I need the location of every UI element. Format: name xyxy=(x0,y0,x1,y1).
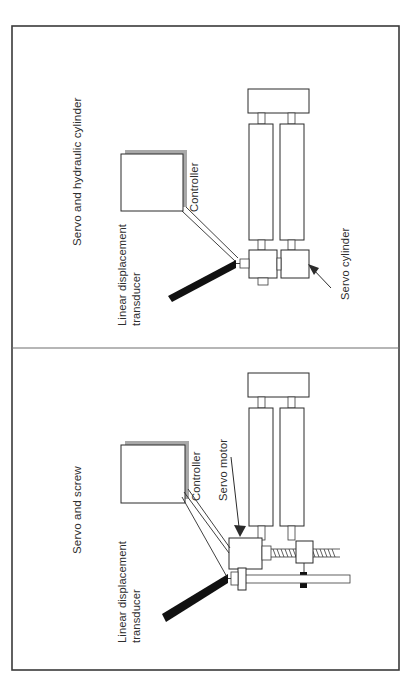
controller-box xyxy=(121,154,183,211)
column-neck-right xyxy=(288,526,295,540)
panel-title-screw: Servo and screw xyxy=(70,466,83,554)
cap-neck-right-screw xyxy=(288,397,295,408)
technical-diagram: Servo and hydraulic cylinder xyxy=(0,0,411,696)
transducer-label-line2: transducer xyxy=(130,272,142,326)
controller-box-screw xyxy=(121,445,185,503)
transducer-flange xyxy=(238,568,246,590)
cap-neck-left-screw xyxy=(258,397,265,408)
servo-cylinder-block xyxy=(281,250,309,278)
servo-motor-label: Servo motor xyxy=(217,439,229,501)
valve-port-stub xyxy=(258,278,268,285)
transducer-label-screw-line2: transducer xyxy=(130,589,142,643)
cap-neck-left xyxy=(258,113,265,124)
screw-nut-block xyxy=(296,541,313,563)
end-cap-block xyxy=(248,89,309,113)
end-cap-block-screw xyxy=(248,373,309,397)
transducer-housing xyxy=(231,572,238,585)
block-bridge xyxy=(277,258,281,270)
guide-rod xyxy=(245,575,350,583)
column-right xyxy=(280,408,304,526)
controller-label: Controller xyxy=(188,162,200,212)
cap-neck-right xyxy=(288,113,295,124)
transducer-mount xyxy=(240,259,249,268)
servo-cylinder-label: Servo cylinder xyxy=(339,228,351,300)
figure-page: Servo and hydraulic cylinder xyxy=(0,0,411,696)
cylinder-barrel-left xyxy=(249,124,273,240)
barrel-neck-right xyxy=(288,240,295,250)
panel-title-hydraulic: Servo and hydraulic cylinder xyxy=(70,98,83,246)
transducer-label-screw-line1: Linear displacement xyxy=(116,540,128,643)
motor-output-boss xyxy=(262,546,271,560)
column-left xyxy=(249,408,273,526)
barrel-neck-left xyxy=(258,240,265,250)
transducer-label-line1: Linear displacement xyxy=(116,223,128,326)
servo-motor-body xyxy=(229,538,262,569)
cylinder-barrel-right xyxy=(280,124,304,240)
servo-valve-block xyxy=(249,250,277,278)
controller-label-screw: Controller xyxy=(190,451,202,501)
